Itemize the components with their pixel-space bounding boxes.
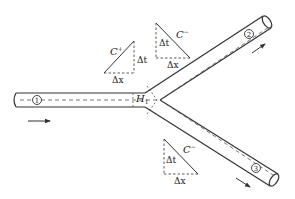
c-minus-lower-dt: Δt [166,155,176,165]
pipe-1-id: 1 [33,96,42,106]
characteristic-c-plus: C+ Δt Δx [104,41,147,85]
c-plus-dt: Δt [137,55,147,65]
c-minus-upper-dt: Δt [159,38,169,48]
c-minus-lower-label: C− [183,143,196,155]
pipe-2-id: 2 [245,30,254,40]
pipe-2-number: 2 [247,31,251,39]
junction-label: H1 [135,93,149,105]
characteristic-c-minus-lower: C− Δt Δx [164,139,198,186]
pipe-1-number: 1 [35,97,39,105]
c-minus-lower-dx: Δx [174,176,186,186]
flow-arrow-3 [236,178,250,187]
c-plus-dx: Δx [112,75,124,85]
pipe-3 [145,100,281,188]
c-minus-upper-dx: Δx [167,60,179,70]
pipe-3-id: 3 [252,164,261,174]
flow-arrow-2 [252,44,265,53]
pipe-2 [145,14,274,100]
pipe-junction-diagram: 1 2 3 H1 C+ Δt Δx C [0,0,295,199]
c-minus-upper-label: C− [176,28,189,40]
pipe-3-number: 3 [254,165,258,173]
characteristic-c-minus-upper: C− Δt Δx [156,23,190,70]
